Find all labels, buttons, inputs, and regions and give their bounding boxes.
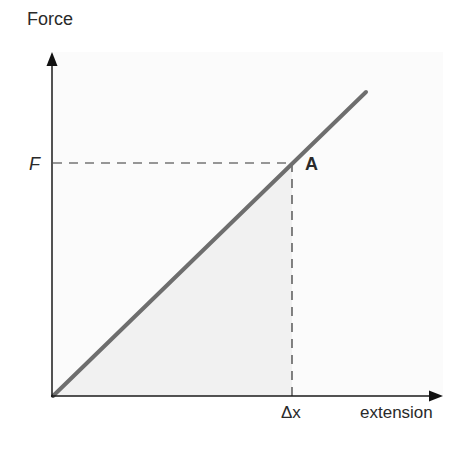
- point-a-label: A: [305, 154, 318, 174]
- x-axis-label: extension: [360, 403, 433, 422]
- force-marker-label: F: [29, 154, 41, 174]
- force-extension-diagram: Force F A Δx extension: [0, 0, 468, 452]
- y-axis-label: Force: [27, 9, 73, 29]
- extension-marker-label: Δx: [281, 403, 301, 422]
